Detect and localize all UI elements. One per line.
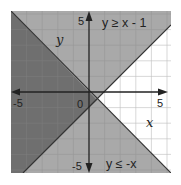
y-axis-label: y xyxy=(55,32,64,47)
tick-y-neg5: -5 xyxy=(72,160,82,172)
tick-y-5: 5 xyxy=(78,15,84,27)
tick-x-0: 0 xyxy=(77,98,83,110)
tick-x-neg5: -5 xyxy=(13,97,23,109)
tick-x-5: 5 xyxy=(157,97,163,109)
x-axis-label: x xyxy=(146,115,154,130)
inequality-label-2: y ≤ -x xyxy=(106,157,137,171)
inequality-graph: -5 0 5 5 -5 y x y ≥ x - 1 y ≤ -x xyxy=(0,0,181,185)
inequality-label-1: y ≥ x - 1 xyxy=(102,16,146,30)
